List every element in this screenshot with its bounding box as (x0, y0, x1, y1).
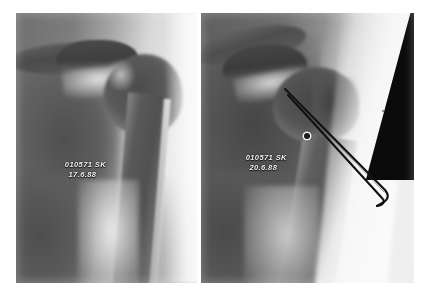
radiograph-panel-left: 010571 SK 17.6.88 (16, 13, 197, 283)
annotation-id-left: 010571 SK (65, 160, 106, 170)
radiograph-panel-right: 010571 SK 20.6.88 (201, 13, 414, 283)
annotation-id-right: 010571 SK (246, 153, 287, 163)
annotation-right: 010571 SK 20.6.88 (246, 153, 287, 173)
radiograph-figure: 010571 SK 17.6.88 (0, 0, 429, 295)
annotation-left: 010571 SK 17.6.88 (65, 160, 106, 180)
film-margin-left-panel (164, 13, 197, 283)
tuberosity-notch-left (107, 59, 136, 91)
lucent-field-right (244, 186, 321, 283)
lucent-field-left (78, 180, 140, 283)
annotation-date-right: 20.6.88 (246, 163, 287, 173)
annotation-date-left: 17.6.88 (65, 170, 106, 180)
